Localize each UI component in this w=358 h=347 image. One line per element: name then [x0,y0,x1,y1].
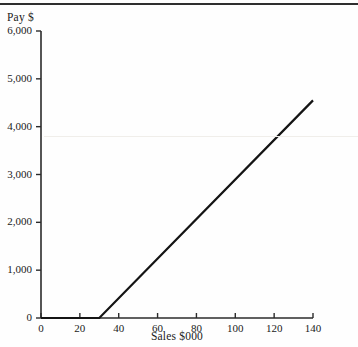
y-axis-tick-label: 1,000 [0,263,32,275]
y-axis-tick-label: 6,000 [0,24,32,36]
x-axis-tick-label: 40 [99,322,139,334]
x-axis-tick-label: 0 [21,322,61,334]
y-axis-tick-label: 4,000 [0,120,32,132]
chart-canvas [0,0,358,347]
y-axis-title: Pay $ [7,11,34,23]
x-axis-tick-label: 120 [254,322,294,334]
x-axis-tick-label: 140 [293,322,333,334]
x-axis-tick-label: 100 [215,322,255,334]
pay-series-line [41,100,313,318]
y-axis-tick-label: 5,000 [0,72,32,84]
x-axis-tick-label: 80 [176,322,216,334]
x-axis-tick-label: 20 [60,322,100,334]
chart-plot-area: Pay $ Sales $000 01,0002,0003,0004,0005,… [0,0,358,347]
scan-artifact-line [44,136,358,137]
y-axis-tick-label: 2,000 [0,215,32,227]
y-axis-tick-label: 3,000 [0,168,32,180]
x-axis-tick-label: 60 [138,322,178,334]
